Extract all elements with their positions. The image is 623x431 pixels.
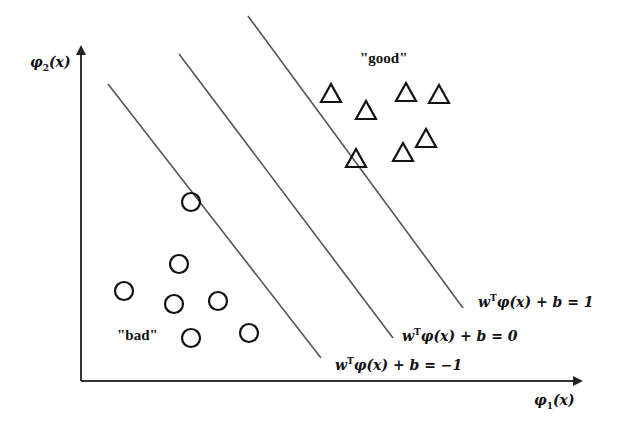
x-axis-label: φ1(x) [534, 392, 575, 411]
hyperplanes [108, 16, 463, 358]
svm-diagram [0, 0, 623, 431]
margin-negative-equation: wTφ(x) + b = −1 [335, 356, 462, 373]
margin-positive-line [248, 16, 463, 308]
circle-point [170, 255, 188, 273]
positive-class-points [321, 83, 449, 167]
circle-point [182, 329, 200, 347]
triangle-point [416, 129, 436, 147]
triangle-point [396, 83, 416, 101]
triangle-point [321, 84, 341, 102]
circle-point [115, 282, 133, 300]
circle-point [240, 324, 258, 342]
triangle-point [393, 143, 413, 161]
triangle-point [346, 149, 366, 167]
bad-class-label: "bad" [117, 327, 158, 344]
triangle-point [429, 85, 449, 103]
triangle-point [356, 101, 376, 119]
good-class-label: "good" [360, 50, 408, 67]
circle-point [165, 295, 183, 313]
y-axis-label: φ2(x) [30, 54, 71, 73]
circle-point [209, 292, 227, 310]
margin-negative-line [108, 84, 321, 358]
circle-point [182, 193, 200, 211]
margin-positive-equation: wTφ(x) + b = 1 [478, 293, 594, 310]
decision-boundary-equation: wTφ(x) + b = 0 [402, 327, 518, 344]
negative-class-points [115, 193, 258, 347]
